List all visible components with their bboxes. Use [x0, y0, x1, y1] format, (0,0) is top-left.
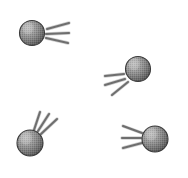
- motion-trail-line: [46, 33, 69, 34]
- sphere-highlight: [20, 131, 32, 144]
- sphere-highlight: [22, 22, 33, 35]
- sphere-highlight: [128, 58, 139, 71]
- particles-illustration: [0, 0, 188, 178]
- illustration-canvas: [0, 0, 188, 178]
- particle-group: [122, 126, 168, 152]
- sphere-highlight: [145, 127, 157, 140]
